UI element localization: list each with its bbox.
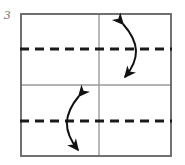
folding-diagram-svg: [0, 0, 185, 165]
folding-diagram-figure: 3: [0, 0, 185, 165]
